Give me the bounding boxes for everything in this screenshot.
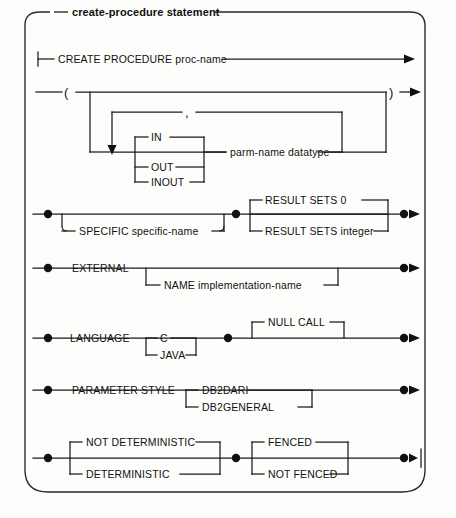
arrow-right-icon <box>409 386 420 395</box>
junction-dot <box>224 334 232 342</box>
style-db2general-label: DB2GENERAL <box>202 401 274 413</box>
language-option-c-label: C <box>160 332 168 344</box>
external-label: EXTERNAL <box>72 262 129 274</box>
junction-dot <box>400 454 408 462</box>
row-parameter-list <box>36 88 421 183</box>
arrow-right-icon <box>410 88 421 97</box>
arrow-down-icon <box>108 145 117 155</box>
junction-dot <box>232 454 240 462</box>
junction-dot <box>400 334 408 342</box>
language-label: LANGUAGE <box>70 332 130 344</box>
junction-dot <box>44 386 52 394</box>
parm-name-datatype-label: parm-name datatype <box>230 146 330 158</box>
junction-dot <box>400 210 408 218</box>
result-sets-zero-label: RESULT SETS 0 <box>265 194 347 206</box>
junction-dot <box>232 210 240 218</box>
arrow-right-icon <box>409 334 420 343</box>
parameter-separator-label: , <box>185 105 189 120</box>
language-option-java-label: JAVA <box>160 349 185 361</box>
fenced-label: FENCED <box>268 436 312 448</box>
diagram-title: create-procedure statement <box>72 6 220 18</box>
specific-label: SPECIFIC specific-name <box>79 225 198 237</box>
junction-dot <box>44 210 52 218</box>
mode-in-label: IN <box>151 131 162 143</box>
name-implementation-label: NAME implementation-name <box>164 279 302 291</box>
create-procedure-label: CREATE PROCEDURE proc-name <box>58 53 227 65</box>
diagram-frame <box>25 12 425 492</box>
junction-dot <box>400 264 408 272</box>
junction-dot <box>44 264 52 272</box>
junction-dot <box>400 386 408 394</box>
arrow-right-icon <box>409 264 420 273</box>
mode-inout-label: INOUT <box>151 176 185 188</box>
not-fenced-label: NOT FENCED <box>268 468 338 480</box>
create-procedure-railroad-diagram: create-procedure statement CREATE PROCED… <box>0 0 456 518</box>
null-call-label: NULL CALL <box>268 316 325 328</box>
syntax-diagram-page: create-procedure statement CREATE PROCED… <box>0 0 456 518</box>
style-db2dari-label: DB2DARI <box>202 384 249 396</box>
junction-dot <box>44 454 52 462</box>
result-sets-integer-label: RESULT SETS integer <box>265 225 374 237</box>
arrow-right-icon <box>409 210 420 219</box>
close-paren-label: ) <box>389 85 393 100</box>
mode-out-label: OUT <box>151 161 174 173</box>
junction-dot <box>44 334 52 342</box>
deterministic-label: DETERMINISTIC <box>86 468 170 480</box>
open-paren-label: ( <box>64 85 69 100</box>
arrow-right-icon <box>409 454 418 463</box>
not-deterministic-label: NOT DETERMINISTIC <box>86 436 195 448</box>
parameter-style-label: PARAMETER STYLE <box>72 384 175 396</box>
arrow-right-icon <box>404 55 415 64</box>
